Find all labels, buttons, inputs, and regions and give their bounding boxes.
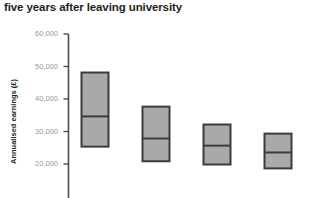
box-plot-chart: five years after leaving university Annu… [0,0,315,198]
box-series [82,73,292,169]
plot-area [0,0,315,198]
box-plot-box [265,134,292,169]
box-plot-box [82,73,109,147]
box-rect [204,125,231,165]
box-rect [82,73,109,147]
box-rect [265,134,292,169]
box-plot-box [204,125,231,165]
box-plot-box [143,107,170,162]
box-rect [143,107,170,162]
